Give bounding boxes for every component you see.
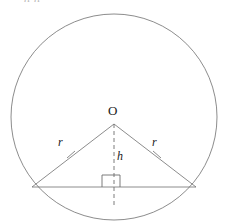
geometry-figure: nn O r r h	[0, 0, 227, 222]
label-radius-right: r	[152, 136, 157, 148]
label-radius-left: r	[58, 136, 63, 148]
right-angle-marker-icon	[102, 175, 120, 187]
label-center-o: O	[108, 104, 117, 117]
radius-line-right	[114, 124, 196, 187]
label-height-h: h	[117, 150, 123, 162]
